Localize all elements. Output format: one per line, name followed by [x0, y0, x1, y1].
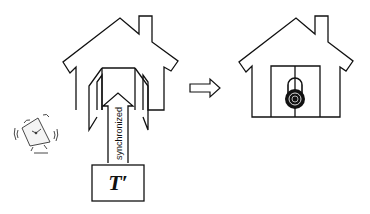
right-arrow-icon [190, 79, 220, 97]
synchronized-label: synchronized [114, 107, 124, 160]
thread-box: T′ [92, 165, 144, 201]
thread-label: T′ [108, 170, 128, 195]
alarm-clock-icon [14, 114, 58, 153]
synchronized-diagram: synchronized T′ [0, 0, 370, 214]
